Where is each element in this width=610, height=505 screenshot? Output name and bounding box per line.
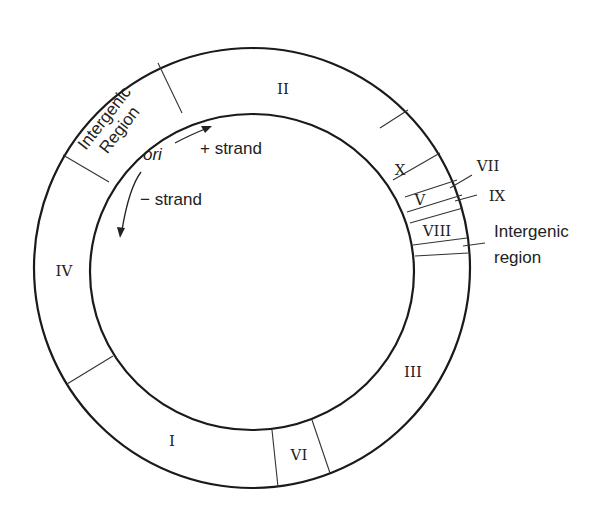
minus-strand-arrow-icon bbox=[122, 172, 141, 230]
minus-strand-label: − strand bbox=[140, 190, 202, 209]
intergenic-region-top: Intergenic Region bbox=[74, 82, 150, 165]
genome-map: II X V VII IX VIII III VI I IV Intergeni… bbox=[0, 0, 610, 505]
divider-v-vii bbox=[405, 180, 457, 197]
label-ii: II bbox=[277, 80, 289, 98]
origin-label: ori bbox=[143, 145, 163, 164]
inner-ring bbox=[90, 114, 414, 430]
label-iii: III bbox=[404, 363, 422, 381]
label-iv: IV bbox=[56, 262, 74, 280]
divider-vi-iii bbox=[312, 420, 330, 473]
divider-ii-x bbox=[380, 110, 408, 128]
label-vi: VI bbox=[290, 446, 308, 464]
label-i: I bbox=[169, 432, 175, 450]
label-x: X bbox=[395, 161, 406, 179]
minus-arrowhead-icon bbox=[117, 227, 125, 238]
plus-strand-label: + strand bbox=[200, 139, 262, 158]
label-v: V bbox=[414, 191, 427, 209]
leader-intergenic-right bbox=[463, 243, 485, 246]
divider-ix-viii bbox=[410, 208, 463, 223]
label-vii: VII bbox=[476, 157, 500, 175]
intergenic-right-line1: Intergenic bbox=[494, 222, 569, 241]
divider-intergenic-iv bbox=[63, 155, 109, 182]
divider-i-vi bbox=[272, 430, 278, 487]
label-ix: IX bbox=[489, 187, 506, 205]
divider-intergenic-iii bbox=[415, 253, 468, 256]
divider-iv-i bbox=[67, 356, 113, 384]
divider-ii-intergenic bbox=[158, 63, 182, 113]
intergenic-right-line2: region bbox=[494, 248, 541, 267]
label-viii: VIII bbox=[422, 222, 452, 240]
